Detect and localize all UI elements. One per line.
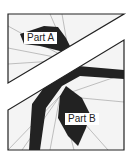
- cut-square-diagram: [0, 0, 133, 156]
- part-b-label: Part B: [65, 113, 99, 125]
- part-a-label: Part A: [24, 32, 57, 44]
